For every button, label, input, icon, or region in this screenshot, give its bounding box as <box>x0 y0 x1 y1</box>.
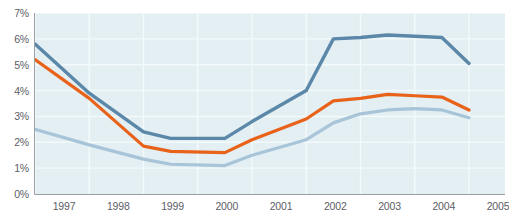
x-tick-label: 2003 <box>378 200 401 212</box>
x-tick-label: 1999 <box>161 200 184 212</box>
x-tick-label: 2002 <box>324 200 347 212</box>
x-tick-label: 2000 <box>215 200 238 212</box>
x-tick-label: 1997 <box>53 200 76 212</box>
x-tick-label: 1998 <box>107 200 130 212</box>
x-tick-label: 2005 <box>487 200 509 212</box>
x-tick-label: 2004 <box>432 200 455 212</box>
x-tick-label: 2001 <box>270 200 293 212</box>
